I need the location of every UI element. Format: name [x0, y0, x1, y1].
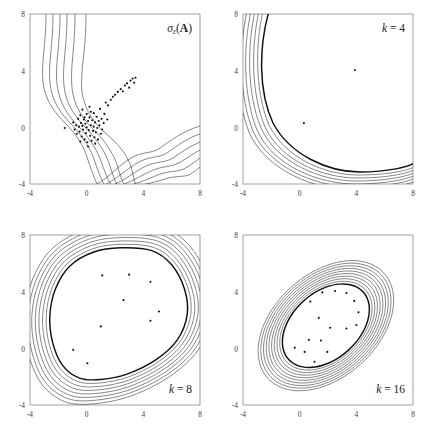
eigenvalue-dot — [82, 128, 84, 130]
panel-plot-area: 8 4 0 -4 -4 0 4 8 — [0, 0, 212, 221]
xtick-label-4: 4 — [354, 189, 358, 198]
contour-line — [263, 266, 388, 386]
eigenvalue-dot — [128, 274, 130, 276]
eigenvalue-dot — [64, 127, 66, 129]
eigenvalue-dot — [87, 145, 89, 147]
eigenvalue-dot — [72, 349, 74, 351]
ytick-label-8: 8 — [234, 10, 238, 19]
contour-line — [43, 14, 97, 184]
xtick-label-neg4: -4 — [240, 189, 246, 198]
contour-line — [277, 279, 375, 373]
ytick-label-4: 4 — [21, 288, 25, 297]
eigenvalue-dot — [98, 124, 100, 126]
eigenvalue-dot — [83, 138, 85, 140]
eigenvalue-dot — [88, 106, 90, 108]
contour-line — [272, 274, 381, 378]
eigenvalue-dot — [87, 120, 89, 122]
eigenvalue-dot — [294, 347, 296, 349]
eigenvalue-dot — [117, 91, 119, 93]
eigenvalue-dot — [345, 292, 347, 294]
xtick-label-neg4: -4 — [240, 410, 246, 419]
eigenvalue-dot — [105, 101, 107, 103]
eigenvalue-dot — [75, 124, 77, 126]
contour-line — [258, 11, 416, 175]
panel-plot-area: 8 4 0 -4 -4 0 4 8 k = 8 — [0, 221, 212, 442]
eigenvalue-dot — [86, 113, 88, 115]
eigenvalue-dot — [93, 136, 95, 138]
eigenvalue-dot — [329, 327, 331, 329]
eigenvalue-dot — [130, 80, 132, 82]
contour-line — [35, 234, 202, 394]
contour-line — [64, 14, 117, 184]
eigenvalue-scatter — [72, 274, 160, 365]
ytick-label-8: 8 — [21, 231, 25, 240]
eigenvalue-dot — [78, 126, 80, 128]
panel-label-sigma: σε(A) — [167, 22, 192, 36]
contour-line — [46, 244, 191, 383]
xtick-label-0: 0 — [85, 410, 89, 419]
contour-line — [50, 14, 104, 184]
eigenvalue-dot — [158, 310, 160, 312]
eigenvalue-dot — [106, 118, 108, 120]
xtick-label-8: 8 — [411, 410, 415, 419]
eigenvalue-dot — [326, 351, 328, 353]
panel-plot-area: 8 4 0 -4 -4 0 4 8 k = 4 — [213, 0, 425, 221]
eigenvalue-dot — [303, 122, 305, 124]
ytick-label-4: 4 — [21, 67, 25, 76]
eigenvalue-dot — [97, 138, 99, 140]
eigenvalue-dot — [88, 129, 90, 131]
eigenvalue-dot — [83, 118, 85, 120]
eigenvalue-dot — [79, 140, 81, 142]
xtick-label-0: 0 — [85, 189, 89, 198]
ytick-label-neg4: -4 — [232, 401, 238, 410]
eigenvalue-dot — [134, 77, 136, 79]
eigenvalue-dot — [126, 82, 128, 84]
contour-line — [261, 263, 391, 388]
eigenvalue-dot — [132, 77, 134, 79]
ytick-label-neg4: -4 — [232, 180, 238, 189]
eigenvalue-dot — [100, 133, 102, 135]
eigenvalue-dot — [122, 90, 124, 92]
eigenvalue-dot — [80, 122, 82, 124]
eigenvalue-dot — [120, 88, 122, 90]
eigenvalue-dot — [320, 339, 322, 341]
xtick-label-0: 0 — [298, 189, 302, 198]
eigenvalue-dot — [81, 109, 83, 111]
eigenvalue-dot — [334, 290, 336, 292]
eigenvalue-dot — [85, 132, 87, 134]
contour-group — [258, 261, 394, 391]
eigenvalue-dot — [96, 127, 98, 129]
pseudospectra-figure: 8 4 0 -4 -4 0 4 8 — [0, 0, 425, 442]
xtick-label-4: 4 — [141, 410, 145, 419]
eigenvalue-dot — [91, 140, 93, 142]
xtick-label-4: 4 — [354, 410, 358, 419]
eigenvalue-dot — [86, 126, 88, 128]
eigenvalue-dot — [99, 108, 101, 110]
ytick-label-0: 0 — [21, 345, 25, 354]
contour-line — [254, 11, 416, 178]
contour-line — [97, 126, 200, 184]
ytick-label-neg4: -4 — [19, 401, 25, 410]
panel-k-16: 8 4 0 -4 -4 0 4 8 k = 16 — [213, 221, 425, 442]
contour-line — [145, 167, 200, 184]
contour-line — [115, 142, 200, 184]
contour-line — [250, 11, 416, 181]
eigenvalue-dot — [313, 361, 315, 363]
panel-k-8: 8 4 0 -4 -4 0 4 8 k = 8 — [0, 221, 212, 442]
eigenvalue-dot — [89, 135, 91, 137]
ytick-label-4: 4 — [234, 288, 238, 297]
eigenvalue-dot — [354, 69, 356, 71]
eigenvalue-dot — [96, 116, 98, 118]
eigenvalue-dot — [91, 119, 93, 121]
eigenvalue-dot — [74, 128, 76, 130]
xtick-label-neg4: -4 — [27, 410, 33, 419]
contour-line — [72, 14, 124, 184]
eigenvalue-scatter — [303, 69, 356, 124]
ytick-label-0: 0 — [21, 124, 25, 133]
ytick-label-8: 8 — [234, 231, 238, 240]
ytick-label-4: 4 — [234, 67, 238, 76]
eigenvalue-dot — [79, 131, 81, 133]
panel-plot-area: 8 4 0 -4 -4 0 4 8 k = 16 — [213, 221, 425, 442]
eigenvalue-dot — [309, 301, 311, 303]
eigenvalue-dot — [353, 300, 355, 302]
